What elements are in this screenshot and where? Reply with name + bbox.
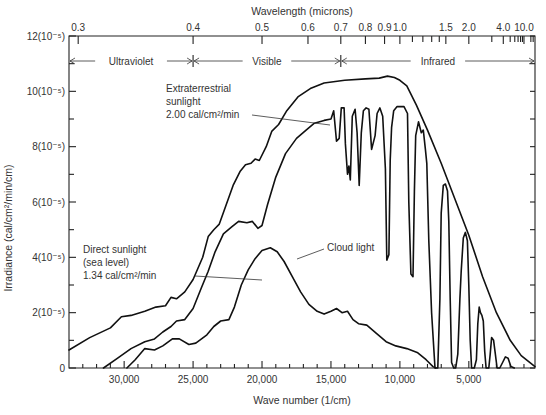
annotation-leader-line	[252, 115, 330, 125]
y-tick-label: 12(10⁻⁵)	[27, 31, 65, 42]
annotation-leader-line	[297, 249, 324, 259]
top-tick-label: 0.4	[186, 22, 200, 33]
plot-frame	[69, 36, 535, 368]
top-tick-label: 0.8	[358, 22, 372, 33]
spectral-region-bands: UltravioletVisibleInfrared	[70, 55, 534, 67]
x-tick-label: 20,000	[247, 374, 278, 385]
top-tick-label: 1.5	[439, 22, 453, 33]
x-axis-title: Wave number (1/cm)	[253, 394, 351, 406]
series-annotations: Extraterrestrialsunlight2.00 cal/cm²/min…	[83, 83, 374, 281]
series-label: sunlight	[166, 96, 201, 107]
top-tick-label: 4.0	[496, 22, 510, 33]
top-tick-label: 0.3	[71, 22, 85, 33]
region-label: Infrared	[421, 56, 455, 67]
chart-canvas: 02(10⁻⁵)4(10⁻⁵)6(10⁻⁵)8(10⁻⁵)10(10⁻⁵)12(…	[0, 0, 546, 415]
top-tick-label: 1.0	[393, 22, 407, 33]
curve-direct-sunlight-sea-level	[104, 107, 515, 368]
curve-extraterrestrial-sunlight	[69, 76, 535, 367]
y-tick-label: 10(10⁻⁵)	[27, 86, 65, 97]
y-tick-label: 2(10⁻⁵)	[32, 307, 65, 318]
top-tick-label: 0.5	[255, 22, 269, 33]
x-axis-ticks: 30,00025,00020,00015,00010,0005,000	[83, 361, 524, 385]
y-tick-label: 8(10⁻⁵)	[32, 141, 65, 152]
region-label: Ultraviolet	[109, 56, 154, 67]
y-tick-label: 0	[59, 363, 65, 374]
y-tick-label: 4(10⁻⁵)	[32, 252, 65, 263]
x-tick-label: 10,000	[385, 374, 416, 385]
series-label: Cloud light	[327, 242, 374, 253]
curve-cloud-light	[127, 248, 436, 368]
series-label: 2.00 cal/cm²/min	[166, 109, 239, 120]
x-tick-label: 25,000	[178, 374, 209, 385]
top-tick-label: 2.0	[462, 22, 476, 33]
top-tick-label: 0.9	[378, 22, 392, 33]
plot-border	[69, 36, 535, 368]
top-tick-label: 10.0	[514, 22, 534, 33]
series-label: 1.34 cal/cm²/min	[83, 270, 156, 281]
y-axis-title: Irradiance (cal/cm²/min/cm)	[2, 164, 14, 291]
top-tick-label: 0.7	[334, 22, 348, 33]
series-curves	[69, 76, 535, 368]
region-label: Visible	[252, 56, 282, 67]
top-wavelength-axis: 0.30.40.50.60.70.80.91.01.52.04.010.0	[71, 22, 534, 44]
series-label: Direct sunlight	[83, 244, 147, 255]
series-label: Extraterrestrial	[166, 83, 231, 94]
top-tick-label: 0.6	[301, 22, 315, 33]
x-tick-label: 15,000	[316, 374, 347, 385]
solar-spectrum-chart: 02(10⁻⁵)4(10⁻⁵)6(10⁻⁵)8(10⁻⁵)10(10⁻⁵)12(…	[0, 0, 546, 415]
series-label: (sea level)	[83, 257, 129, 268]
x-tick-label: 5,000	[456, 374, 481, 385]
top-axis-title: Wavelength (microns)	[251, 5, 353, 17]
y-tick-label: 6(10⁻⁵)	[32, 197, 65, 208]
x-tick-label: 30,000	[109, 374, 140, 385]
